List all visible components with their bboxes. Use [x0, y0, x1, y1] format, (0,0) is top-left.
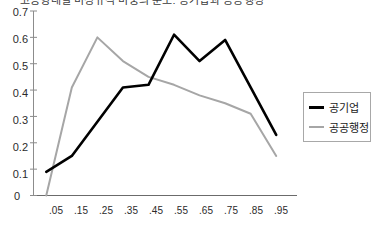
chart-legend: 공기업 공공행정 [303, 92, 371, 142]
legend-swatch-icon-1 [309, 126, 324, 128]
legend-swatch-icon-0 [309, 106, 324, 109]
legend-item-0: 공기업 [309, 99, 359, 115]
chart-screenshot: 고용형태별 비정규직 비중의 분포: 공기업과 공공행정 0.7 0.6 0.5… [0, 0, 377, 232]
legend-label-0: 공기업 [329, 99, 359, 115]
legend-item-1: 공공행정 [309, 119, 369, 135]
legend-label-1: 공공행정 [329, 119, 369, 135]
series-line-gonggieop [46, 35, 276, 172]
